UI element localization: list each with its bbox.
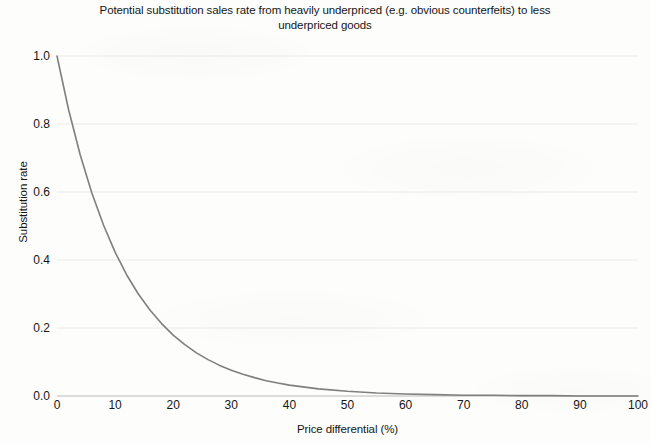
gridlines — [57, 56, 638, 396]
y-axis-tick-label: 0.4 — [16, 253, 50, 267]
x-axis-tick-labels: 0102030405060708090100 — [0, 398, 651, 416]
series-line-substitution-rate — [57, 56, 638, 396]
x-axis-tick-label: 70 — [444, 398, 484, 412]
plot-area — [0, 0, 651, 443]
x-axis-tick-label: 20 — [153, 398, 193, 412]
y-axis-tick-label: 0.6 — [16, 185, 50, 199]
x-axis-tick-label: 60 — [386, 398, 426, 412]
y-axis-tick-label: 0.2 — [16, 321, 50, 335]
chart-figure: Potential substitution sales rate from h… — [0, 0, 651, 443]
x-axis-tick-label: 40 — [269, 398, 309, 412]
y-axis-tick-label: 0.8 — [16, 117, 50, 131]
y-axis-tick-label: 1.0 — [16, 49, 50, 63]
x-axis-tick-label: 80 — [502, 398, 542, 412]
x-axis-tick-label: 30 — [211, 398, 251, 412]
x-axis-tick-label: 50 — [328, 398, 368, 412]
x-axis-tick-label: 0 — [37, 398, 77, 412]
x-axis-tick-label: 100 — [618, 398, 651, 412]
y-axis-tick-labels: 1.00.80.60.40.20.0 — [8, 0, 50, 443]
x-axis-tick-label: 90 — [560, 398, 600, 412]
x-axis-tick-label: 10 — [95, 398, 135, 412]
